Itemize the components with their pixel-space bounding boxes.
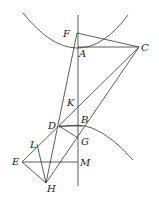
- label-L: L: [29, 139, 37, 150]
- line-EH: [22, 162, 46, 183]
- geometry-diagram: F A C K D B G L E M H: [0, 0, 159, 201]
- line-LH: [37, 144, 46, 183]
- label-G: G: [81, 136, 89, 147]
- label-F: F: [62, 28, 71, 39]
- line-FC: [77, 33, 139, 47]
- line-DG: [59, 126, 78, 138]
- label-D: D: [47, 120, 56, 131]
- label-H: H: [46, 183, 56, 194]
- lower-parabola-curve: [59, 125, 133, 160]
- label-K: K: [66, 97, 75, 108]
- label-B: B: [80, 114, 88, 125]
- label-A: A: [78, 48, 86, 59]
- upper-parabola-curve: [23, 13, 128, 48]
- label-E: E: [11, 156, 20, 167]
- label-C: C: [141, 42, 149, 53]
- label-M: M: [79, 157, 91, 168]
